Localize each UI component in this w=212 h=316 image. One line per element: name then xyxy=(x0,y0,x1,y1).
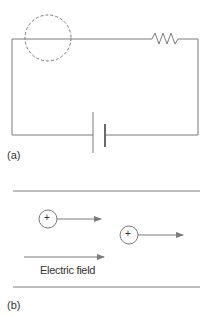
electric-field-label: Electric field xyxy=(40,265,95,276)
figure-a-label: (a) xyxy=(7,150,20,161)
charge-1-sign: + xyxy=(44,213,50,223)
figure-b-label: (b) xyxy=(7,300,20,311)
circuit-diagram xyxy=(12,15,198,153)
charge-2-sign: + xyxy=(125,229,131,239)
resistor-icon xyxy=(152,33,198,44)
diagram-canvas xyxy=(0,0,212,316)
dashed-circle-icon xyxy=(25,15,71,61)
circuit-wire-left xyxy=(12,39,93,135)
